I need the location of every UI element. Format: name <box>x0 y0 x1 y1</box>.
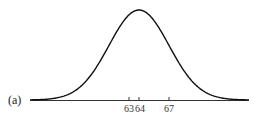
panel-label: (a) <box>8 94 21 106</box>
bell-curve <box>30 10 249 100</box>
tick-label-67: 67 <box>164 104 174 114</box>
tick-label-63: 63 <box>124 104 134 114</box>
tick-label-64: 64 <box>135 104 145 114</box>
